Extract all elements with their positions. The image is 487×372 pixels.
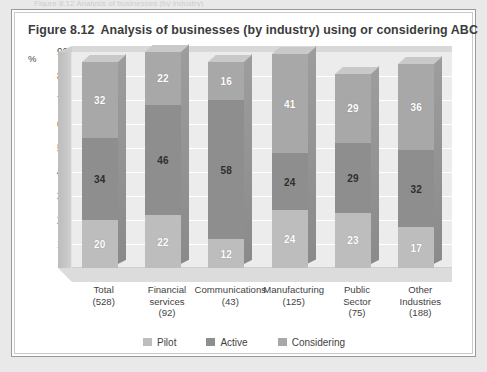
x-axis-label-line: (92) xyxy=(129,307,204,319)
legend-swatch-pilot xyxy=(143,338,152,346)
bar-stack: 165812 xyxy=(208,62,244,268)
bar-group[interactable]: 323420 xyxy=(82,52,118,268)
bar-segment-active[interactable]: 32 xyxy=(398,150,434,227)
bar-segment-value: 29 xyxy=(335,103,371,114)
bar-top-face xyxy=(208,55,252,62)
y-axis-unit-label: % xyxy=(28,53,36,64)
legend-item-considering[interactable]: Considering xyxy=(278,337,345,348)
legend-item-active[interactable]: Active xyxy=(206,337,247,348)
bar-segment-pilot[interactable]: 20 xyxy=(82,220,118,268)
bar-segment-value: 32 xyxy=(398,183,434,194)
bar-segment-value: 29 xyxy=(335,173,371,184)
bar-segment-value: 36 xyxy=(398,102,434,113)
bar-segment-value: 22 xyxy=(145,236,181,247)
page-background: Figure 8.12 Analysis of businesses (by i… xyxy=(0,0,487,372)
legend-swatch-active xyxy=(206,338,215,346)
bar-segment-considering[interactable]: 29 xyxy=(335,74,371,144)
bar-segment-value: 46 xyxy=(145,155,181,166)
bar-group[interactable]: 224622 xyxy=(145,52,181,268)
bar-stack: 363217 xyxy=(398,64,434,268)
figure-number: Figure 8.12 xyxy=(28,23,95,37)
bar-top-face xyxy=(82,55,126,62)
bar-segment-active[interactable]: 29 xyxy=(335,143,371,213)
chart-plate: % 102030405060708090 3234202246221658124… xyxy=(28,46,460,336)
x-axis-label-line: (188) xyxy=(383,307,458,319)
bar-side-face xyxy=(181,44,189,264)
x-axis-label: OtherIndustries(188) xyxy=(383,284,458,319)
legend-label: Pilot xyxy=(157,337,176,348)
bar-segment-value: 24 xyxy=(272,234,308,245)
legend-label: Active xyxy=(220,337,247,348)
bar-side-face xyxy=(371,66,379,264)
bar-segment-value: 58 xyxy=(208,164,244,175)
bar-segment-considering[interactable]: 36 xyxy=(398,64,434,150)
bar-segment-active[interactable]: 24 xyxy=(272,153,308,211)
bar-segment-pilot[interactable]: 22 xyxy=(145,215,181,268)
bar-segment-value: 20 xyxy=(82,239,118,250)
bar-segment-value: 41 xyxy=(272,98,308,109)
x-axis-label-line: Industries xyxy=(383,296,458,308)
x-axis-labels: Total(528)Financialservices(92)Communica… xyxy=(72,284,452,330)
bar-segment-pilot[interactable]: 12 xyxy=(208,239,244,268)
bar-segment-value: 24 xyxy=(272,176,308,187)
bar-segment-value: 34 xyxy=(82,174,118,185)
bar-side-face xyxy=(118,54,126,264)
bar-segment-value: 17 xyxy=(398,242,434,253)
bar-segment-value: 22 xyxy=(145,73,181,84)
bar-stack: 412424 xyxy=(272,54,308,268)
x-axis-label-line: Other xyxy=(383,284,458,296)
legend-item-pilot[interactable]: Pilot xyxy=(143,337,176,348)
bar-segment-value: 23 xyxy=(335,235,371,246)
bar-segment-pilot[interactable]: 17 xyxy=(398,227,434,268)
bar-segment-considering[interactable]: 32 xyxy=(82,62,118,139)
bar-segment-value: 32 xyxy=(82,95,118,106)
figure-title: Figure 8.12Analysis of businesses (by in… xyxy=(28,23,458,37)
bar-segment-active[interactable]: 34 xyxy=(82,138,118,220)
bar-segment-value: 16 xyxy=(208,75,244,86)
legend-label: Considering xyxy=(292,337,345,348)
bar-segment-considering[interactable]: 41 xyxy=(272,54,308,152)
bars-layer: 323420224622165812412424292923363217 xyxy=(72,52,452,268)
bar-group[interactable]: 363217 xyxy=(398,52,434,268)
bar-stack: 292923 xyxy=(335,74,371,268)
bar-segment-pilot[interactable]: 23 xyxy=(335,213,371,268)
bar-group[interactable]: 412424 xyxy=(272,52,308,268)
bar-side-face xyxy=(308,46,316,264)
bar-segment-active[interactable]: 46 xyxy=(145,105,181,215)
legend-swatch-considering xyxy=(278,338,287,346)
figure-frame: Figure 8.12Analysis of businesses (by in… xyxy=(11,9,476,357)
bar-segment-active[interactable]: 58 xyxy=(208,100,244,239)
floor-3d xyxy=(58,268,452,282)
cut-off-header-text: Figure 8.12 Analysis of businesses (by i… xyxy=(34,0,454,7)
bar-group[interactable]: 292923 xyxy=(335,52,371,268)
bar-top-face xyxy=(335,67,379,74)
bar-group[interactable]: 165812 xyxy=(208,52,244,268)
bar-segment-value: 12 xyxy=(208,248,244,259)
bar-stack: 323420 xyxy=(82,62,118,268)
bar-side-face xyxy=(434,56,442,264)
left-wall-3d xyxy=(58,52,72,268)
bar-segment-considering[interactable]: 16 xyxy=(208,62,244,100)
chart-legend: PilotActiveConsidering xyxy=(28,334,460,350)
figure-title-text: Analysis of businesses (by industry) usi… xyxy=(101,23,478,37)
bar-segment-pilot[interactable]: 24 xyxy=(272,210,308,268)
bar-segment-considering[interactable]: 22 xyxy=(145,52,181,105)
bar-stack: 224622 xyxy=(145,52,181,268)
bar-side-face xyxy=(244,54,252,264)
